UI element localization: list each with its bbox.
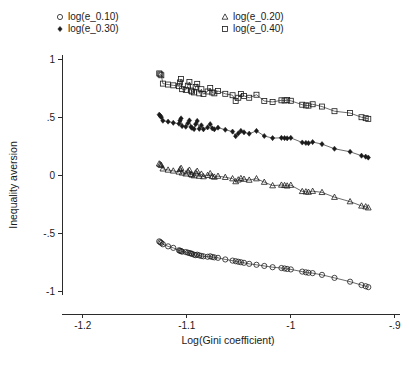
- x-axis-title: Log(Gini coefficient): [181, 334, 274, 346]
- y-axis-title: Inequality aversion: [7, 141, 19, 229]
- legend-label: log(e_0.10): [68, 11, 119, 22]
- y-axis-tick-label: 0: [49, 170, 55, 181]
- y-axis-tick-label: .5: [47, 112, 56, 123]
- y-axis-tick-label: -1: [46, 286, 55, 297]
- legend-label: log(e_0.30): [68, 23, 119, 34]
- y-axis-tick-label: 1: [49, 54, 55, 65]
- legend-label: log(e_0.20): [233, 11, 284, 22]
- x-axis-tick-label: -1: [286, 320, 295, 331]
- y-axis-tick-label: -.5: [43, 228, 55, 239]
- chart-figure: log(e_0.10)log(e_0.20)log(e_0.30)log(e_0…: [0, 0, 409, 369]
- x-axis-tick-label: -1.1: [178, 320, 196, 331]
- x-axis-tick-label: -1.2: [74, 320, 92, 331]
- x-axis-tick-label: -.9: [389, 320, 401, 331]
- figure-caption-sliver: [6, 364, 306, 369]
- inequality-aversion-scatter-chart: log(e_0.10)log(e_0.20)log(e_0.30)log(e_0…: [0, 0, 409, 369]
- legend-label: log(e_0.40): [233, 23, 284, 34]
